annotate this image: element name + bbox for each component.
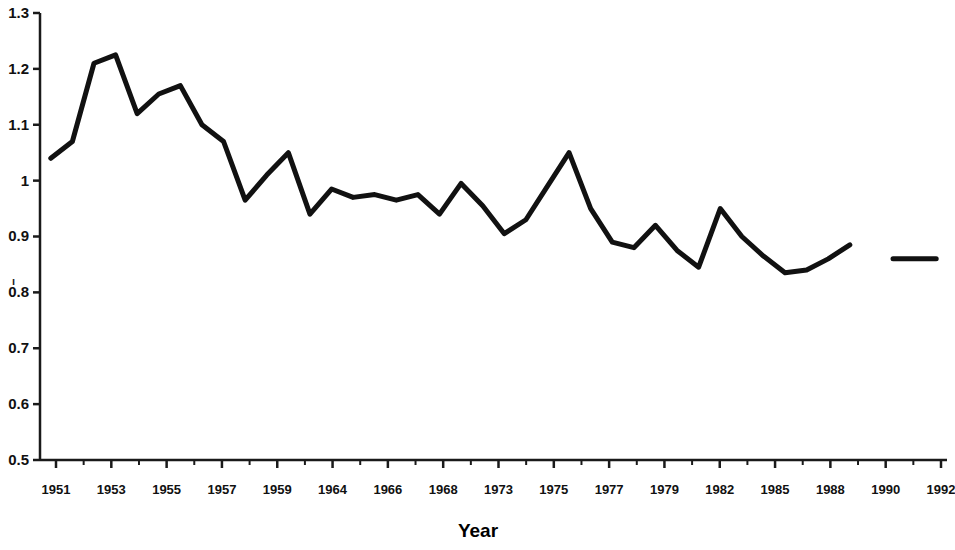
plot-area xyxy=(51,55,936,273)
x-axis-tick-label: 1979 xyxy=(650,482,679,497)
x-axis-tick-label: 1966 xyxy=(373,482,402,497)
x-axis-tick-label: 1992 xyxy=(927,482,955,497)
x-axis-tick-label: 1973 xyxy=(484,482,513,497)
x-axis-tick-label: 1951 xyxy=(42,482,71,497)
y-axis-tick-label: 1.1 xyxy=(8,116,29,133)
x-axis-tick-label: 1985 xyxy=(761,482,790,497)
y-axis-tick-label: 1 xyxy=(21,172,29,189)
x-axis-tick-label: 1968 xyxy=(429,482,458,497)
x-axis-tick-label: 1975 xyxy=(539,482,568,497)
y-axis-tick-label: 1.3 xyxy=(8,4,29,21)
x-axis-tick-label: 1988 xyxy=(816,482,845,497)
x-axis-tick-label: 1964 xyxy=(318,482,348,497)
x-axis-tick-label: 1953 xyxy=(97,482,126,497)
x-axis-tick-label: 1959 xyxy=(263,482,292,497)
x-axis-title: Year xyxy=(458,520,499,541)
x-axis-tick-label: 1977 xyxy=(595,482,624,497)
y-axis-tick-label: 0.5 xyxy=(8,451,29,468)
x-axis-tick-label: 1990 xyxy=(871,482,900,497)
y-axis-tick-label: 0.7 xyxy=(8,339,29,356)
y-axis-tick-label: 1.2 xyxy=(8,60,29,77)
x-axis-tick-label: 1955 xyxy=(152,482,181,497)
line-chart: 1.31.21.110.90.80.70.60.5 19511953195519… xyxy=(0,0,955,550)
y-axis-tick-label: 0.9 xyxy=(8,227,29,244)
y-axis-tick-label: 0.6 xyxy=(8,395,29,412)
data-line-main xyxy=(51,55,850,273)
y-axis: 1.31.21.110.90.80.70.60.5 xyxy=(8,4,40,468)
stray-ink-mark: ı xyxy=(12,275,15,287)
x-axis: 1951195319551957195919641966196819731975… xyxy=(40,460,955,497)
x-axis-tick-label: 1957 xyxy=(207,482,236,497)
x-axis-tick-label: 1982 xyxy=(705,482,734,497)
chart-canvas: 1.31.21.110.90.80.70.60.5 19511953195519… xyxy=(0,0,955,550)
